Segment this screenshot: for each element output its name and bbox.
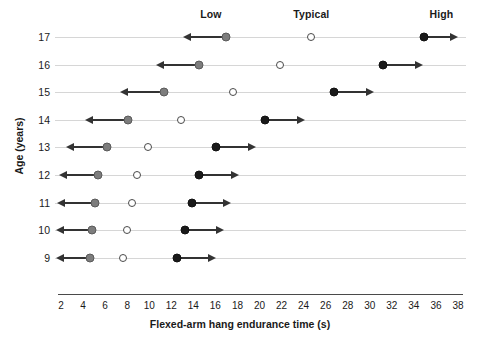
low-arrow-head-age-12 bbox=[59, 171, 67, 179]
high-arrow-head-age-12 bbox=[231, 171, 239, 179]
row-line-age-10 bbox=[55, 230, 466, 231]
typical-marker-age-14 bbox=[177, 116, 185, 124]
high-marker-age-9 bbox=[172, 253, 181, 262]
high-marker-age-14 bbox=[261, 115, 270, 124]
high-arrow-head-age-16 bbox=[415, 61, 423, 69]
x-tick-label-20: 20 bbox=[254, 300, 265, 311]
y-tick-label-10: 10 bbox=[28, 224, 50, 236]
x-tick-label-4: 4 bbox=[80, 300, 86, 311]
y-tick-label-9: 9 bbox=[28, 252, 50, 264]
row-line-age-13 bbox=[55, 147, 466, 148]
high-arrow-head-age-13 bbox=[248, 143, 256, 151]
low-marker-age-12 bbox=[94, 171, 103, 180]
low-arrow-head-age-17 bbox=[183, 33, 191, 41]
x-tick-label-36: 36 bbox=[430, 300, 441, 311]
low-arrow-head-age-10 bbox=[56, 226, 64, 234]
low-marker-age-10 bbox=[87, 226, 96, 235]
y-tick-label-11: 11 bbox=[28, 197, 50, 209]
x-tick-label-16: 16 bbox=[210, 300, 221, 311]
row-line-age-15 bbox=[55, 92, 466, 93]
row-line-age-11 bbox=[55, 203, 466, 204]
zone-label-typical: Typical bbox=[293, 8, 329, 20]
low-marker-age-13 bbox=[103, 143, 112, 152]
high-arrow-shaft-age-9 bbox=[177, 257, 211, 259]
typical-marker-age-9 bbox=[119, 254, 127, 262]
high-arrow-head-age-15 bbox=[366, 88, 374, 96]
high-marker-age-16 bbox=[379, 60, 388, 69]
x-tick-label-12: 12 bbox=[166, 300, 177, 311]
x-tick-label-26: 26 bbox=[320, 300, 331, 311]
high-arrow-head-age-11 bbox=[223, 199, 231, 207]
x-tick-label-28: 28 bbox=[342, 300, 353, 311]
high-marker-age-15 bbox=[330, 88, 339, 97]
x-tick-label-34: 34 bbox=[408, 300, 419, 311]
high-arrow-head-age-17 bbox=[450, 33, 458, 41]
x-tick-label-24: 24 bbox=[298, 300, 309, 311]
y-tick-label-13: 13 bbox=[28, 141, 50, 153]
typical-marker-age-11 bbox=[128, 199, 136, 207]
high-arrow-head-age-14 bbox=[297, 116, 305, 124]
low-marker-age-11 bbox=[91, 198, 100, 207]
high-arrow-head-age-10 bbox=[216, 226, 224, 234]
row-line-age-17 bbox=[55, 37, 466, 38]
y-tick-label-16: 16 bbox=[28, 59, 50, 71]
high-marker-age-12 bbox=[194, 171, 203, 180]
x-tick-label-8: 8 bbox=[124, 300, 130, 311]
high-arrow-shaft-age-15 bbox=[334, 91, 368, 93]
typical-marker-age-13 bbox=[144, 143, 152, 151]
x-axis-line bbox=[58, 294, 463, 295]
high-arrow-head-age-9 bbox=[208, 254, 216, 262]
y-tick-label-12: 12 bbox=[28, 169, 50, 181]
zone-label-low: Low bbox=[200, 8, 221, 20]
low-marker-age-17 bbox=[222, 33, 231, 42]
low-arrow-head-age-15 bbox=[120, 88, 128, 96]
high-arrow-shaft-age-10 bbox=[185, 229, 219, 231]
low-marker-age-16 bbox=[194, 60, 203, 69]
low-arrow-head-age-9 bbox=[56, 254, 64, 262]
flexed-arm-hang-chart: LowTypicalHighAge (years)171615141312111… bbox=[0, 0, 480, 339]
high-marker-age-10 bbox=[180, 226, 189, 235]
x-tick-label-38: 38 bbox=[452, 300, 463, 311]
high-marker-age-11 bbox=[188, 198, 197, 207]
x-tick-label-18: 18 bbox=[232, 300, 243, 311]
x-tick-label-14: 14 bbox=[188, 300, 199, 311]
low-marker-age-15 bbox=[159, 88, 168, 97]
high-arrow-shaft-age-13 bbox=[216, 146, 250, 148]
high-marker-age-13 bbox=[212, 143, 221, 152]
x-tick-label-32: 32 bbox=[386, 300, 397, 311]
x-tick-label-22: 22 bbox=[276, 300, 287, 311]
x-tick-label-2: 2 bbox=[58, 300, 64, 311]
low-marker-age-14 bbox=[124, 115, 133, 124]
y-tick-label-15: 15 bbox=[28, 86, 50, 98]
high-arrow-shaft-age-12 bbox=[199, 174, 233, 176]
typical-marker-age-16 bbox=[276, 61, 284, 69]
high-marker-age-17 bbox=[419, 33, 428, 42]
typical-marker-age-17 bbox=[307, 33, 315, 41]
high-arrow-shaft-age-16 bbox=[383, 64, 417, 66]
x-tick-label-30: 30 bbox=[364, 300, 375, 311]
low-arrow-head-age-14 bbox=[85, 116, 93, 124]
row-line-age-12 bbox=[55, 175, 466, 176]
y-tick-label-17: 17 bbox=[28, 31, 50, 43]
x-axis-title: Flexed-arm hang endurance time (s) bbox=[0, 318, 480, 330]
row-line-age-9 bbox=[55, 258, 466, 259]
low-arrow-head-age-13 bbox=[66, 143, 74, 151]
typical-marker-age-15 bbox=[229, 88, 237, 96]
x-tick-label-6: 6 bbox=[102, 300, 108, 311]
low-arrow-head-age-11 bbox=[57, 199, 65, 207]
low-arrow-head-age-16 bbox=[156, 61, 164, 69]
low-marker-age-9 bbox=[85, 253, 94, 262]
zone-label-high: High bbox=[430, 8, 454, 20]
y-axis-title: Age (years) bbox=[13, 101, 25, 191]
y-tick-label-14: 14 bbox=[28, 114, 50, 126]
typical-marker-age-10 bbox=[123, 226, 131, 234]
typical-marker-age-12 bbox=[133, 171, 141, 179]
x-tick-label-10: 10 bbox=[144, 300, 155, 311]
high-arrow-shaft-age-14 bbox=[265, 119, 299, 121]
high-arrow-shaft-age-11 bbox=[192, 202, 225, 204]
